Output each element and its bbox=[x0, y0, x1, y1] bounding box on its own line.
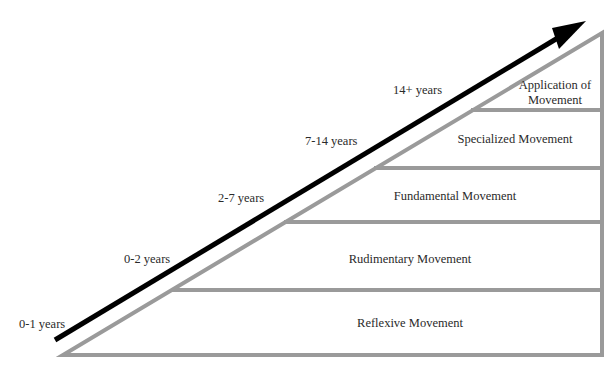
age-label-2-7: 2-7 years bbox=[218, 191, 264, 205]
age-label-0-1: 0-1 years bbox=[19, 317, 65, 331]
stage-label-specialized: Specialized Movement bbox=[430, 132, 600, 146]
age-label-0-2: 0-2 years bbox=[124, 252, 170, 266]
age-label-7-14: 7-14 years bbox=[305, 134, 357, 148]
stage-label-fundamental: Fundamental Movement bbox=[345, 189, 565, 203]
stage-label-rudimentary: Rudimentary Movement bbox=[290, 252, 530, 266]
age-label-14-plus: 14+ years bbox=[393, 83, 442, 97]
stage-label-reflexive: Reflexive Movement bbox=[300, 316, 520, 330]
stage-label-application-line1: Application of bbox=[505, 78, 605, 92]
stage-label-application-line2: Movement bbox=[505, 93, 605, 107]
